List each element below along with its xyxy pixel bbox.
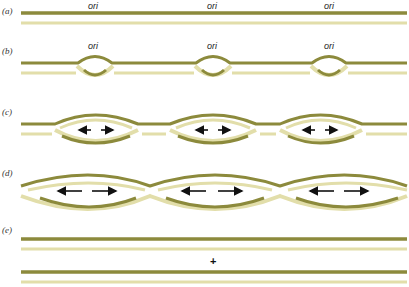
ori-label: ori <box>88 1 99 11</box>
ori-label: ori <box>88 41 99 51</box>
panel-label-a: (a) <box>2 6 13 16</box>
panel-label-e: (e) <box>2 225 12 235</box>
ori-label: ori <box>207 1 218 11</box>
ori-label: ori <box>324 41 335 51</box>
replication-diagram: (a) ori ori ori (b) ori ori ori (c) <box>0 0 409 287</box>
panel-label-b: (b) <box>2 46 13 56</box>
ori-label: ori <box>324 1 335 11</box>
panel-b-strands <box>21 57 407 76</box>
panel-label-d: (d) <box>2 168 13 178</box>
panel-d-strands <box>21 175 407 209</box>
ori-label: ori <box>207 41 218 51</box>
plus-symbol: + <box>210 255 216 267</box>
panel-label-c: (c) <box>2 107 12 117</box>
panel-c-strands <box>21 115 407 143</box>
